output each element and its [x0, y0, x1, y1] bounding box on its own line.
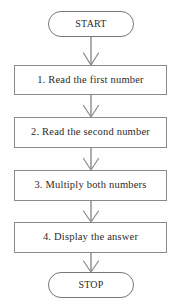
connector-step1-to-step2: [80, 95, 102, 118]
node-start: START: [48, 11, 134, 37]
node-step3: 3. Multiply both numbers: [14, 170, 167, 201]
node-stop-label: STOP: [78, 280, 103, 290]
connector-start-to-step1: [80, 37, 102, 66]
connector-step4-to-stop: [80, 253, 102, 273]
node-start-label: START: [75, 19, 106, 29]
node-stop: STOP: [48, 272, 134, 298]
connector-step3-to-step4: [80, 201, 102, 223]
node-step3-label: 3. Multiply both numbers: [34, 180, 146, 191]
node-step4-label: 4. Display the answer: [43, 232, 138, 243]
node-step4: 4. Display the answer: [14, 222, 167, 253]
node-step2-label: 2. Read the second number: [31, 127, 150, 138]
node-step2: 2. Read the second number: [14, 117, 167, 148]
connector-step2-to-step3: [80, 148, 102, 171]
node-step1: 1. Read the first number: [14, 65, 167, 95]
node-step1-label: 1. Read the first number: [37, 74, 144, 85]
flowchart-diagram: START 1. Read the first number 2. Read t…: [0, 0, 194, 304]
